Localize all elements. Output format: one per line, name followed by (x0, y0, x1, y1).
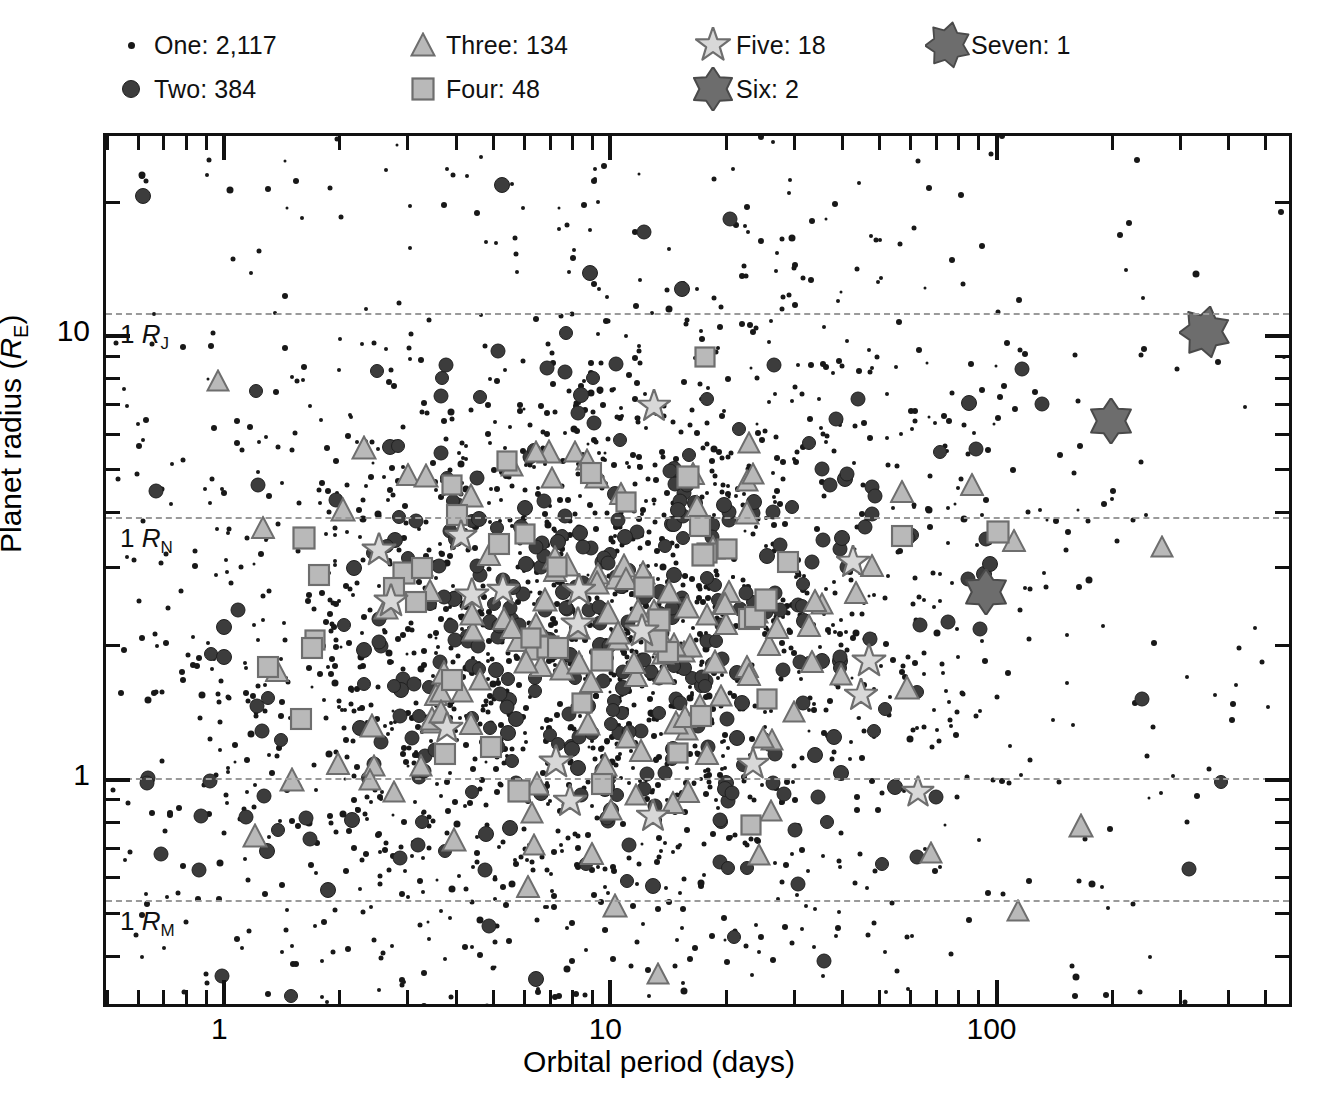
legend-item-three[interactable]: Three: 134 (400, 30, 568, 60)
y-tick-6 (106, 433, 120, 436)
data-point-one (1290, 560, 1292, 564)
y-tick-label-1: 1 (30, 758, 90, 792)
y-tick-0.6000000000000001 (106, 876, 120, 879)
x-tick-9 (591, 990, 594, 1004)
x-tick-10 (608, 980, 612, 1004)
y-tick-right-1 (1265, 778, 1289, 782)
y-tick-right-20 (1275, 201, 1289, 204)
x-tick-7 (549, 990, 552, 1004)
reference-line-neptune (106, 517, 1289, 519)
legend-label-seven: Seven: 1 (971, 31, 1070, 60)
reference-lines-layer: 1 RJ1 RN1 RM (106, 136, 1289, 1004)
x-tick-top-8 (571, 136, 574, 150)
reference-line-jupiter (106, 313, 1289, 315)
y-tick-20 (106, 201, 120, 204)
x-tick-top-0.8 (185, 136, 188, 150)
y-tick-7 (106, 403, 120, 406)
seven-point-star-icon (925, 30, 971, 60)
y-tick-right-2 (1275, 644, 1289, 647)
y-tick-right-7 (1275, 403, 1289, 406)
data-point-one (865, 1004, 869, 1007)
x-tick-2 (338, 990, 341, 1004)
x-tick-top-2 (338, 136, 341, 150)
reference-label-neptune: 1 RN (120, 523, 173, 558)
y-tick-right-3 (1275, 566, 1289, 569)
y-tick-right-0.8 (1275, 821, 1289, 824)
triangle-icon (400, 30, 446, 60)
six-point-star-icon (690, 74, 736, 104)
x-tick-label-1: 1 (179, 1012, 259, 1046)
reference-label-mars: 1 RM (120, 906, 175, 941)
x-tick-label-10: 10 (565, 1012, 645, 1046)
y-tick-8 (106, 377, 120, 380)
five-point-star-icon (690, 30, 736, 60)
legend-item-four[interactable]: Four: 48 (400, 74, 540, 104)
legend-item-five[interactable]: Five: 18 (690, 30, 826, 60)
x-tick-500 (1264, 990, 1267, 1004)
x-tick-5 (492, 990, 495, 1004)
y-tick-right-4 (1275, 511, 1289, 514)
x-tick-top-1 (222, 136, 226, 160)
x-tick-20 (725, 990, 728, 1004)
x-tick-top-60 (909, 136, 912, 150)
x-tick-top-4 (455, 136, 458, 150)
y-tick-1 (106, 778, 130, 782)
x-axis-title: Orbital period (days) (0, 1045, 1318, 1079)
x-tick-top-0.7000000000000001 (162, 136, 165, 150)
y-tick-0.5 (106, 912, 120, 915)
data-point-one (485, 1004, 490, 1007)
x-tick-200 (1111, 990, 1114, 1004)
legend-label-four: Four: 48 (446, 75, 540, 104)
y-tick-right-0.5 (1275, 912, 1289, 915)
x-tick-top-3 (406, 136, 409, 150)
x-tick-top-0.9 (205, 136, 208, 150)
y-tick-right-0.6000000000000001 (1275, 876, 1289, 879)
x-tick-top-70 (935, 136, 938, 150)
y-tick-label-10: 10 (30, 314, 90, 348)
y-tick-0.4 (106, 955, 120, 958)
small-dot-icon (108, 30, 154, 60)
y-axis-title: Planet radius (RE) (0, 315, 33, 553)
x-tick-top-90 (977, 136, 980, 150)
y-tick-5 (106, 468, 120, 471)
legend-item-six[interactable]: Six: 2 (690, 74, 799, 104)
y-tick-right-6 (1275, 433, 1289, 436)
x-tick-300 (1179, 990, 1182, 1004)
y-tick-right-5 (1275, 468, 1289, 471)
x-tick-top-0.5 (106, 136, 109, 150)
y-tick-9 (106, 355, 120, 358)
x-tick-0.7000000000000001 (162, 990, 165, 1004)
data-point-one (737, 1004, 743, 1007)
y-tick-right-10 (1265, 334, 1289, 338)
legend-label-three: Three: 134 (446, 31, 568, 60)
x-tick-100 (995, 980, 999, 1004)
x-tick-0.6000000000000001 (137, 990, 140, 1004)
x-tick-1 (222, 980, 226, 1004)
x-tick-40 (841, 990, 844, 1004)
data-point-one (327, 1006, 331, 1008)
y-tick-0.9 (106, 798, 120, 801)
legend: One: 2,117Two: 384Three: 134Four: 48Five… (0, 0, 1318, 118)
x-tick-top-400 (1227, 136, 1230, 150)
x-tick-0.9 (205, 990, 208, 1004)
x-tick-top-6 (523, 136, 526, 150)
x-tick-50 (878, 990, 881, 1004)
x-tick-60 (909, 990, 912, 1004)
legend-item-one[interactable]: One: 2,117 (108, 30, 277, 60)
y-tick-10 (106, 334, 130, 338)
square-icon (400, 74, 446, 104)
x-tick-top-50 (878, 136, 881, 150)
legend-item-seven[interactable]: Seven: 1 (925, 30, 1070, 60)
x-tick-0.5 (106, 990, 109, 1004)
y-tick-0.7000000000000001 (106, 847, 120, 850)
x-tick-top-7 (549, 136, 552, 150)
y-tick-4 (106, 511, 120, 514)
legend-item-two[interactable]: Two: 384 (108, 74, 256, 104)
x-tick-top-0.6000000000000001 (137, 136, 140, 150)
x-tick-70 (935, 990, 938, 1004)
x-tick-top-30 (793, 136, 796, 150)
x-tick-top-40 (841, 136, 844, 150)
x-tick-label-100: 100 (952, 1012, 1032, 1046)
x-tick-80 (957, 990, 960, 1004)
x-tick-8 (571, 990, 574, 1004)
